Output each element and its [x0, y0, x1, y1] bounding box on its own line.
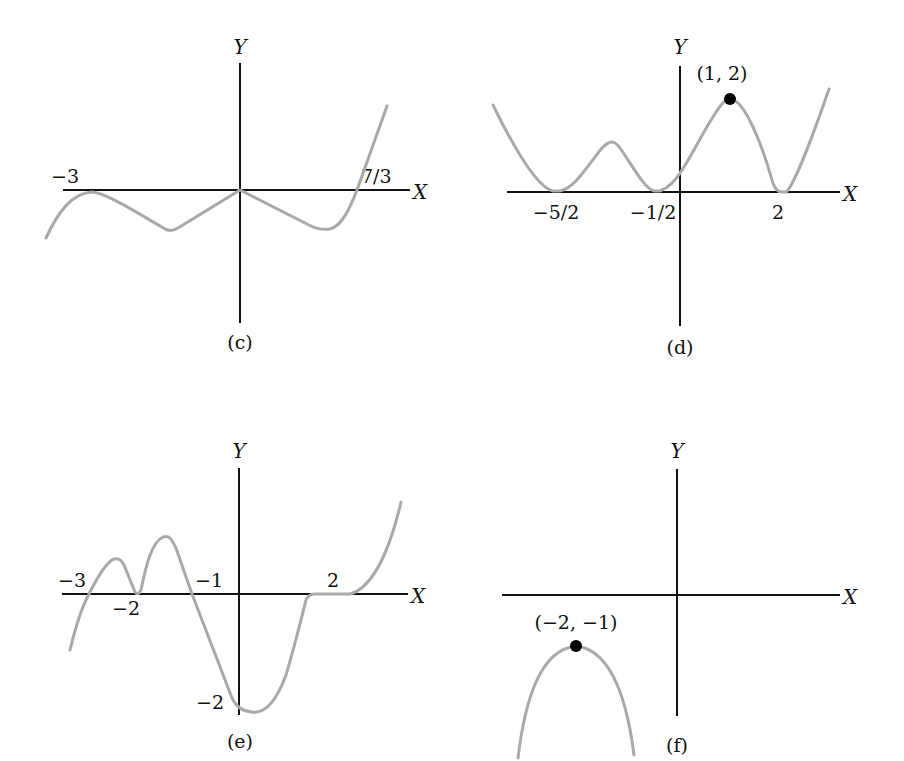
point-marker: [724, 93, 736, 105]
tick-label: −3: [51, 165, 79, 187]
panel-caption: (f): [666, 734, 688, 756]
panel-e: Y X −3 −2 −1 2 −2 (e): [58, 439, 426, 752]
curve: [518, 646, 634, 758]
point-label: (1, 2): [696, 62, 747, 84]
point-label: (−2, −1): [535, 611, 618, 633]
tick-label: 2: [327, 569, 339, 591]
x-axis-label: X: [841, 585, 858, 609]
panel-caption: (c): [227, 331, 252, 353]
panel-c: Y X −3 7/3 (c): [46, 35, 428, 353]
panel-f: Y X (−2, −1) (f): [502, 439, 858, 758]
y-axis-label: Y: [232, 439, 247, 463]
panel-caption: (d): [667, 336, 694, 358]
x-axis-label: X: [411, 180, 428, 204]
x-axis-label: X: [841, 182, 858, 206]
tick-label: −5/2: [533, 201, 580, 223]
panel-caption: (e): [227, 730, 253, 752]
y-axis-label: Y: [673, 35, 688, 59]
y-axis-label: Y: [233, 35, 248, 59]
tick-label: 2: [772, 201, 784, 223]
curve: [493, 89, 829, 192]
tick-label: −2: [196, 691, 224, 713]
curve: [46, 106, 387, 238]
tick-label: −1/2: [630, 201, 677, 223]
tick-label: −3: [58, 569, 86, 591]
function-graphs-figure: Y X −3 7/3 (c) Y X −5/2 −1/2 2 (1, 2) (d…: [0, 0, 904, 761]
x-axis-label: X: [409, 584, 426, 608]
y-axis-label: Y: [670, 439, 685, 463]
panel-d: Y X −5/2 −1/2 2 (1, 2) (d): [493, 35, 858, 358]
tick-label: −2: [112, 597, 140, 619]
tick-label: −1: [195, 569, 223, 591]
point-marker: [570, 640, 582, 652]
